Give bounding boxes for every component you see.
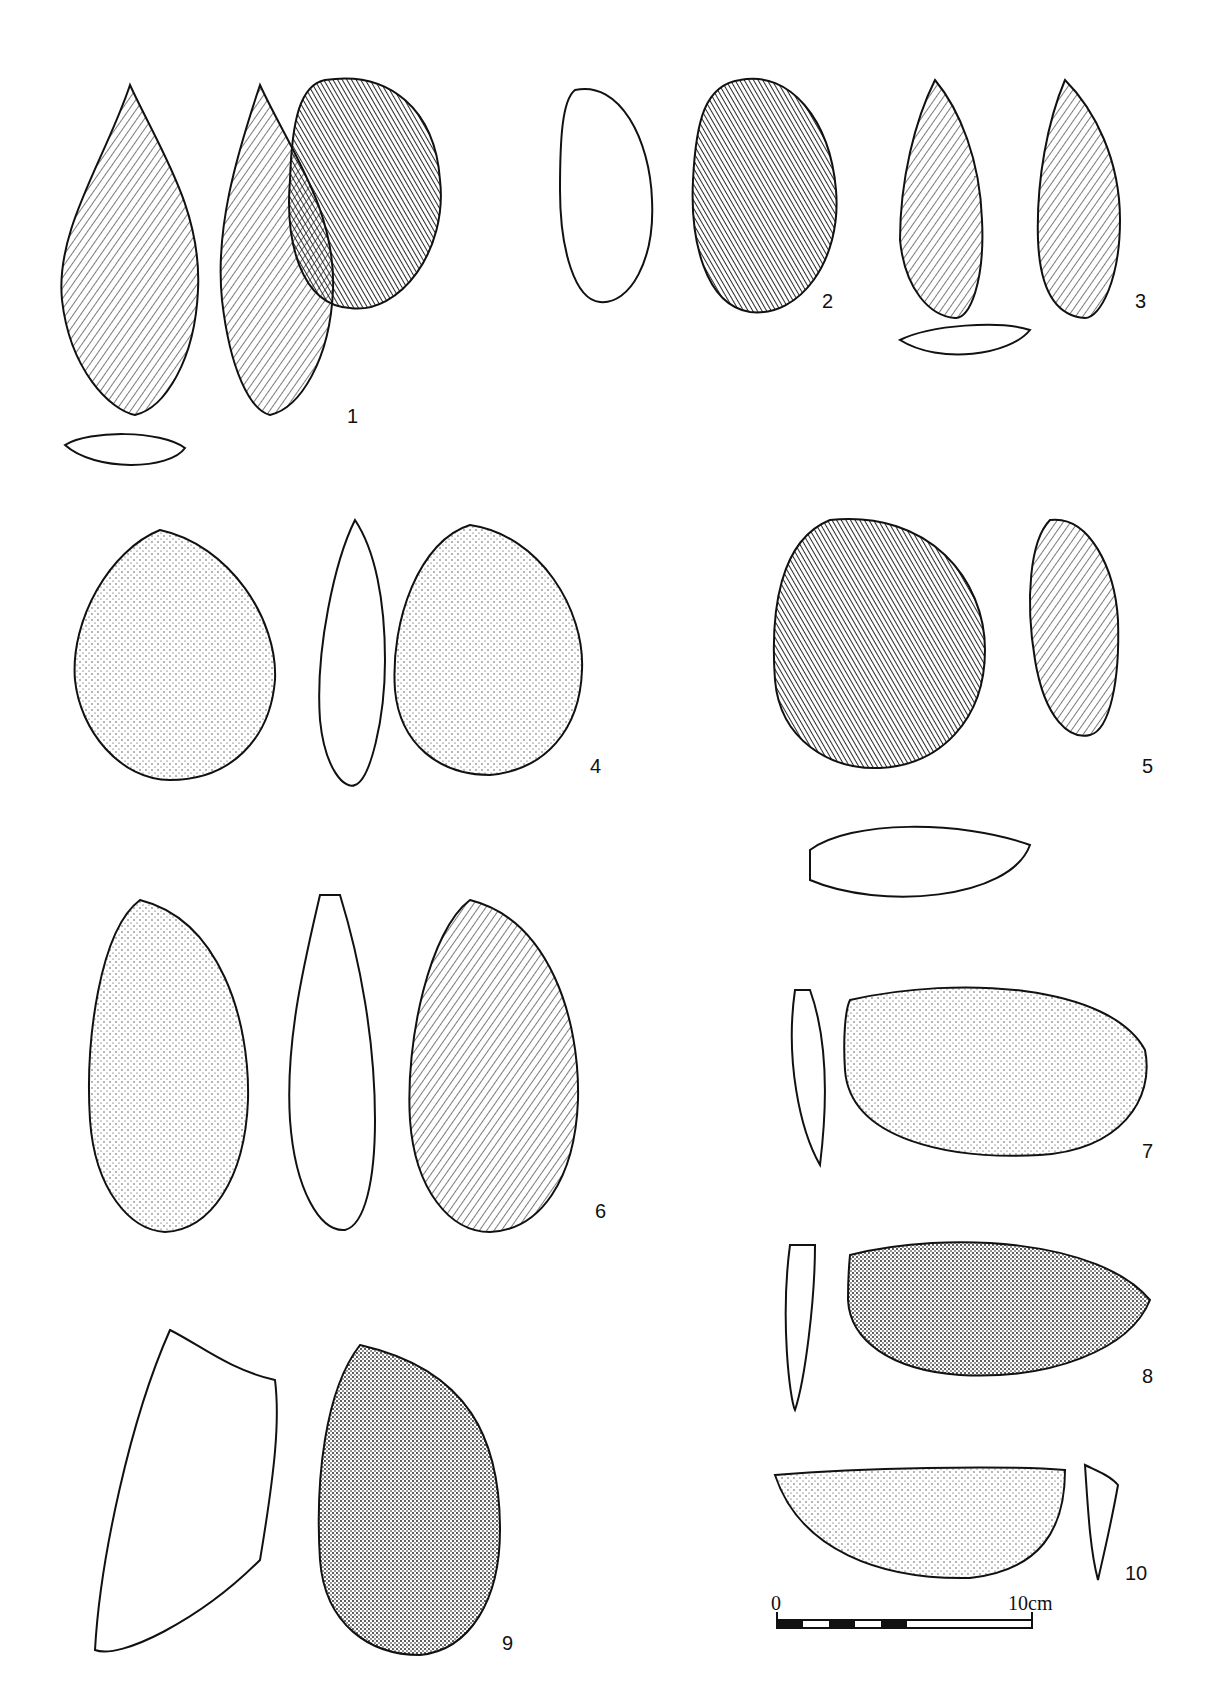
scale-bar: [777, 1612, 1032, 1628]
scale-start-label: 0: [771, 1592, 781, 1615]
label-3: 3: [1135, 290, 1146, 313]
artifact-5: [774, 519, 1118, 897]
artifact-10: [775, 1465, 1118, 1580]
label-10: 10: [1125, 1562, 1147, 1585]
artifact-drawings: [0, 0, 1212, 1707]
label-5: 5: [1142, 755, 1153, 778]
artifact-8: [786, 1242, 1150, 1410]
label-7: 7: [1142, 1140, 1153, 1163]
label-2: 2: [822, 290, 833, 313]
artifact-2: [289, 78, 836, 312]
artifact-9: [95, 1330, 500, 1655]
label-6: 6: [595, 1200, 606, 1223]
artifact-4: [75, 520, 583, 786]
label-1: 1: [347, 405, 358, 428]
artifact-6: [89, 895, 578, 1232]
label-4: 4: [590, 755, 601, 778]
artifact-3: [900, 80, 1120, 354]
label-8: 8: [1142, 1365, 1153, 1388]
label-9: 9: [502, 1632, 513, 1655]
artifact-7: [792, 987, 1147, 1165]
scale-end-label: 10cm: [1008, 1592, 1052, 1615]
